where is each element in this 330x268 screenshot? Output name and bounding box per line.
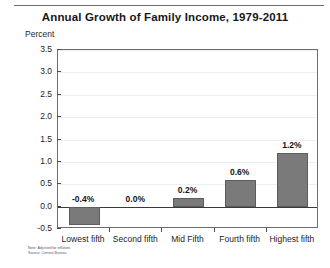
bar: [69, 207, 100, 225]
y-axis-tick-mark: [57, 116, 61, 117]
bar-value-label: 0.2%: [178, 185, 197, 195]
x-axis-tick-label: Highest fifth: [269, 234, 314, 244]
y-axis-tick-label: 3.5: [22, 44, 52, 54]
gridline: [58, 50, 317, 51]
bar: [173, 198, 204, 207]
x-axis-tick-label: Second fifth: [113, 234, 158, 244]
bar: [277, 153, 308, 207]
x-axis-tick-label: Fourth fifth: [219, 234, 260, 244]
y-axis-tick-label: 1.5: [22, 134, 52, 144]
x-axis-tick-mark: [109, 228, 110, 232]
chart-footnotes: Note: Adjusted for inflation. Source: Ce…: [28, 246, 71, 255]
x-axis-tick-label: Lowest fifth: [62, 234, 105, 244]
y-axis-tick-mark: [57, 228, 61, 229]
chart-figure: Annual Growth of Family Income, 1979-201…: [0, 0, 330, 268]
gridline: [58, 117, 317, 118]
bar-value-label: -0.4%: [72, 194, 94, 204]
y-axis-tick-label: 0.5: [22, 178, 52, 188]
y-axis-tick-mark: [57, 183, 61, 184]
bar-value-label: 0.0%: [126, 194, 145, 204]
plot-area: [57, 49, 318, 228]
y-axis-tick-label: -0.5: [22, 223, 52, 233]
chart-title: Annual Growth of Family Income, 1979-201…: [0, 11, 330, 23]
y-axis-tick-mark: [57, 49, 61, 50]
x-axis-tick-mark: [266, 228, 267, 232]
y-axis-tick-mark: [57, 71, 61, 72]
y-axis-tick-label: 1.0: [22, 156, 52, 166]
gridline: [58, 72, 317, 73]
footnote-note: Note: Adjusted for inflation.: [28, 246, 71, 251]
y-axis-tick-label: 2.5: [22, 89, 52, 99]
bar-value-label: 0.6%: [230, 167, 249, 177]
bar: [225, 180, 256, 207]
y-axis-tick-label: 3.0: [22, 66, 52, 76]
x-axis-tick-mark: [161, 228, 162, 232]
header-divider: [14, 5, 324, 6]
bar-value-label: 1.2%: [282, 140, 301, 150]
y-axis-tick-label: 2.0: [22, 111, 52, 121]
footnote-source: Source: Census Bureau.: [28, 251, 71, 256]
y-axis-tick-label: 0.0: [22, 201, 52, 211]
y-axis-tick-mark: [57, 161, 61, 162]
gridline: [58, 95, 317, 96]
y-axis-tick-mark: [57, 139, 61, 140]
y-axis-tick-mark: [57, 206, 61, 207]
x-axis-tick-mark: [214, 228, 215, 232]
y-axis-tick-mark: [57, 94, 61, 95]
gridline: [58, 140, 317, 141]
x-axis-tick-label: Mid Fifth: [171, 234, 204, 244]
y-axis-unit-label: Percent: [25, 29, 54, 39]
